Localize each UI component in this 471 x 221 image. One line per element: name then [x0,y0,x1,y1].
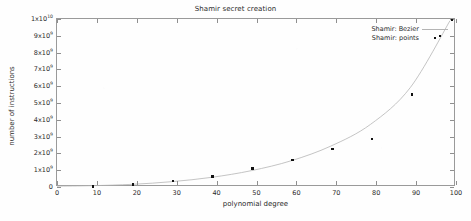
x-tick-mark [97,19,98,23]
y-tick-mark [450,36,454,37]
x-tick-mark [257,19,258,23]
y-tick-mark [57,86,61,87]
legend-label-bezier: Shamir: Bezier [371,25,419,33]
y-tick-label-0: 0 [49,183,53,191]
y-tick-label-5: 5x109 [34,99,53,107]
x-tick-mark [376,181,377,185]
data-point-8 [411,93,413,95]
x-tick-label-9: 90 [412,189,420,197]
y-tick-mark [57,103,61,104]
y-tick-mark [450,53,454,54]
data-point-2 [172,180,174,182]
x-tick-mark [177,19,178,23]
chart-legend: Shamir: Bezier Shamir: points [371,24,448,42]
x-tick-mark [456,181,457,185]
data-point-3 [211,175,213,177]
y-tick-label-3: 3x109 [34,133,53,141]
y-tick-label-10: 1x1010 [31,15,53,23]
x-tick-mark [456,19,457,23]
y-tick-mark [57,53,61,54]
x-tick-mark [217,181,218,185]
y-tick-mark [57,153,61,154]
data-point-0 [92,185,94,187]
y-tick-mark [450,170,454,171]
x-tick-label-4: 40 [212,189,220,197]
x-tick-label-2: 20 [133,189,141,197]
chart-title: Shamir secret creation [0,5,471,13]
y-tick-mark [450,120,454,121]
y-tick-label-7: 7x109 [34,65,53,73]
x-tick-mark [336,181,337,185]
y-axis-label: number of instructions [8,46,16,166]
y-tick-mark [57,36,61,37]
data-point-5 [291,159,293,161]
y-tick-mark [450,86,454,87]
y-tick-mark [57,120,61,121]
y-tick-mark [450,153,454,154]
data-point-7 [371,138,373,140]
x-tick-mark [97,181,98,185]
y-tick-mark [450,187,454,188]
x-tick-label-5: 50 [252,189,260,197]
x-tick-mark [137,181,138,185]
x-tick-mark [257,181,258,185]
chart-figure: Shamir secret creation 01x1092x1093x1094… [0,0,471,221]
legend-label-points: Shamir: points [372,34,419,42]
data-point-4 [251,167,253,169]
x-tick-label-0: 0 [55,189,59,197]
x-tick-mark [376,19,377,23]
data-point-10 [451,19,453,21]
x-tick-label-10: 100 [450,189,462,197]
legend-item-points: Shamir: points [371,33,448,42]
y-tick-mark [450,137,454,138]
y-tick-mark [450,103,454,104]
y-tick-mark [57,187,61,188]
x-tick-mark [296,19,297,23]
y-tick-mark [57,69,61,70]
x-tick-label-1: 10 [93,189,101,197]
x-tick-mark [57,19,58,23]
y-tick-label-9: 9x109 [34,32,53,40]
x-tick-label-7: 70 [332,189,340,197]
y-tick-label-1: 1x109 [34,166,53,174]
plot-area: 01x1092x1093x1094x1095x1096x1097x1098x10… [56,18,455,186]
y-tick-label-6: 6x109 [34,82,53,90]
x-tick-label-8: 80 [372,189,380,197]
x-tick-mark [296,181,297,185]
bezier-curve [57,21,450,186]
data-point-1 [132,183,134,185]
x-tick-mark [137,19,138,23]
legend-item-bezier: Shamir: Bezier [371,24,448,33]
x-tick-label-6: 60 [292,189,300,197]
y-tick-mark [57,137,61,138]
y-tick-mark [57,170,61,171]
legend-key-line [422,24,448,33]
x-tick-mark [416,181,417,185]
plot-canvas [57,19,454,186]
x-tick-mark [217,19,218,23]
x-tick-mark [177,181,178,185]
x-tick-label-3: 30 [173,189,181,197]
y-tick-label-4: 4x109 [34,116,53,124]
y-tick-label-2: 2x109 [34,149,53,157]
x-tick-mark [416,19,417,23]
data-point-6 [331,148,333,150]
x-tick-mark [336,19,337,23]
x-axis-label: polynomial degree [56,200,455,208]
legend-key-marker [422,33,448,42]
x-tick-mark [57,181,58,185]
y-tick-label-8: 8x109 [34,49,53,57]
y-tick-mark [450,69,454,70]
